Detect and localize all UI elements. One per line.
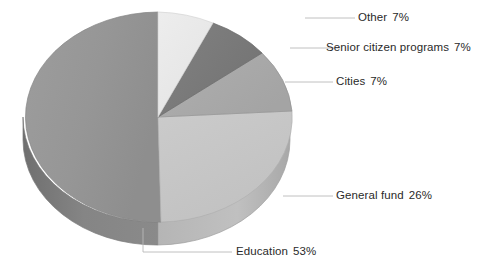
slice-label-other: Other7% xyxy=(358,12,409,24)
slice-label-education: Education53% xyxy=(236,246,316,258)
slice-label-other-pct: 7% xyxy=(392,11,409,23)
pie-chart-figure: Other7% Senior citizen programs7% Cities… xyxy=(0,0,485,270)
slice-label-cities: Cities7% xyxy=(336,76,387,88)
pie-slice-general-fund[interactable] xyxy=(158,111,292,222)
slice-label-education-pct: 53% xyxy=(293,245,316,257)
slice-label-cities-name: Cities xyxy=(336,75,365,87)
slice-label-other-name: Other xyxy=(358,11,387,23)
slice-label-senior-pct: 7% xyxy=(454,41,471,53)
slice-label-general-fund-name: General fund xyxy=(336,189,404,201)
slice-label-cities-pct: 7% xyxy=(370,75,387,87)
slice-label-general-fund: General fund26% xyxy=(336,190,432,202)
slice-label-senior-citizen-programs: Senior citizen programs7% xyxy=(326,42,471,54)
slice-label-education-name: Education xyxy=(236,245,288,257)
slice-label-senior-name: Senior citizen programs xyxy=(326,41,449,53)
slice-label-general-fund-pct: 26% xyxy=(409,189,432,201)
